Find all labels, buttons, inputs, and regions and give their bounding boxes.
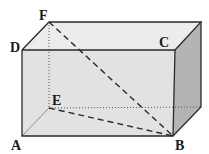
label-F: F: [39, 8, 48, 23]
label-A: A: [11, 138, 22, 153]
prism-diagram: F D C E A B: [0, 0, 209, 154]
label-B: B: [175, 138, 184, 153]
label-E: E: [52, 93, 61, 108]
top-face: [22, 22, 201, 50]
front-face: [22, 50, 175, 136]
label-D: D: [10, 40, 20, 55]
label-C: C: [159, 35, 169, 50]
